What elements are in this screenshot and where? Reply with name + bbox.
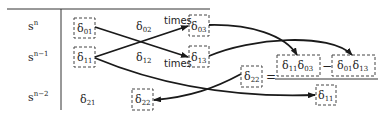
times-label-top: times (164, 15, 192, 26)
arrow-d13-to-numerator-term2 (209, 40, 352, 56)
times-label-bottom: times (164, 58, 192, 69)
numerator-minus: − (322, 59, 332, 73)
cell-d03: δ03 (191, 20, 207, 34)
row-label-s-n-1: sn−1 (28, 50, 48, 64)
numerator-term1: δ11δ03 (282, 59, 313, 73)
cell-d13: δ13 (191, 51, 207, 65)
numerator-term2: δ01δ13 (337, 59, 368, 73)
denominator: δ11 (318, 89, 334, 103)
cell-d12: δ12 (136, 51, 152, 65)
formula-lhs: δ22 (244, 70, 260, 84)
routh-array-diagram: sn sn−1 sn−2 δ01 δ02 δ03 δ11 δ12 δ13 δ21… (0, 0, 386, 117)
cell-d02: δ02 (136, 20, 152, 34)
cell-d01: δ01 (77, 22, 93, 36)
cell-d11: δ11 (77, 51, 93, 65)
formula-equals: = (266, 70, 276, 84)
row-label-s-n: sn (28, 19, 39, 33)
cell-d21: δ21 (80, 93, 96, 107)
row-label-s-n-2: sn−2 (28, 90, 48, 104)
cell-d22: δ22 (135, 93, 151, 107)
